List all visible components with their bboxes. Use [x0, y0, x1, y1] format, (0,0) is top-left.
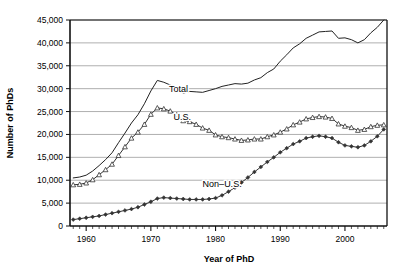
series-label-u-s: U.S.: [174, 112, 192, 122]
x-axis-title: Year of PhD: [204, 254, 255, 264]
phd-trend-line-chart: 05,00010,00015,00020,00025,00030,00035,0…: [0, 0, 408, 269]
series-label-total: Total: [169, 84, 188, 94]
y-tick-label: 30,000: [37, 84, 63, 94]
x-tick-label: 1960: [77, 234, 96, 244]
x-tick-label: 1970: [141, 234, 160, 244]
y-tick-label: 40,000: [37, 38, 63, 48]
y-tick-label: 45,000: [37, 15, 63, 25]
x-tick-label: 1990: [271, 234, 290, 244]
y-axis-title: Number of PhDs: [5, 88, 15, 159]
y-tick-label: 25,000: [37, 107, 63, 117]
x-tick-label: 2000: [335, 234, 354, 244]
chart-figure: 05,00010,00015,00020,00025,00030,00035,0…: [0, 0, 408, 269]
y-tick-label: 15,000: [37, 152, 63, 162]
y-tick-label: 10,000: [37, 175, 63, 185]
series-label-non-u-s: Non–U.S.: [203, 179, 242, 189]
y-tick-label: 20,000: [37, 129, 63, 139]
x-tick-label: 1980: [206, 234, 225, 244]
y-tick-label: 5,000: [42, 198, 64, 208]
y-tick-label: 0: [58, 221, 63, 231]
y-tick-label: 35,000: [37, 61, 63, 71]
